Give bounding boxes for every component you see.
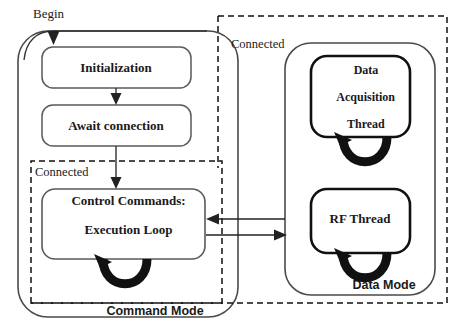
node-data-acquisition-line-3: Thread xyxy=(347,117,385,131)
data-mode-label: Data Mode xyxy=(352,278,415,292)
node-control-commands-line-2: Execution Loop xyxy=(85,221,173,236)
diagram-canvas: Begin Initialization Await connection Co… xyxy=(0,0,466,333)
edge-data-to-control-arrowhead xyxy=(206,214,219,225)
command-mode-connected-label: Connected xyxy=(35,165,88,179)
data-mode-connected-label: Connected xyxy=(231,37,284,51)
node-rf-thread-label: RF Thread xyxy=(330,212,391,227)
command-mode-label: Command Mode xyxy=(106,304,203,318)
edge-initialization-to-await-arrowhead xyxy=(111,93,122,105)
node-control-commands-label: Control Commands: Execution Loop xyxy=(58,179,185,252)
node-data-acquisition-line-1: Data xyxy=(354,63,379,77)
node-data-acquisition-line-2: Acquisition xyxy=(336,90,395,104)
edge-begin-arrowhead xyxy=(48,31,60,45)
node-await-connection-label: Await connection xyxy=(68,119,163,134)
node-data-acquisition-thread-label: Data Acquisition Thread xyxy=(325,51,395,145)
begin-label: Begin xyxy=(33,7,64,22)
node-initialization-label: Initialization xyxy=(80,61,152,76)
node-control-commands-line-1: Control Commands: xyxy=(71,192,185,207)
